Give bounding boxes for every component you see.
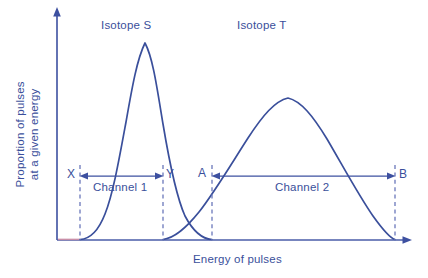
curves-group: [80, 43, 395, 240]
y-axis-arrow-icon: [53, 7, 61, 17]
channel-1-right-arrowhead-icon: [155, 173, 164, 180]
y-axis-title-line-1: Proportion of pulses: [13, 69, 27, 199]
y-axis-title-line-2: at a given energy: [27, 69, 41, 199]
pulse-energy-distribution-figure: Isotope S Isotope T X Y A B Channel 1 Ch…: [0, 0, 428, 278]
isotope-s-label: Isotope S: [101, 18, 151, 32]
threshold-label-y: Y: [166, 167, 174, 182]
y-axis-title: Proportion of pulses at a given energy: [13, 69, 42, 199]
channel-1-left-arrowhead-icon: [80, 173, 89, 180]
channel-2-arrow-group: [212, 173, 396, 180]
isotope-s-curve: [80, 43, 212, 240]
channel-1-label: Channel 1: [93, 180, 147, 194]
figure-canvas: [0, 0, 428, 278]
x-axis-arrow-icon: [403, 236, 413, 244]
isotope-t-label: Isotope T: [237, 18, 287, 32]
channel-1-arrow-group: [80, 173, 164, 180]
x-axis-title: Energy of pulses: [193, 252, 282, 266]
channel-2-right-arrowhead-icon: [387, 173, 396, 180]
channel-2-left-arrowhead-icon: [212, 173, 221, 180]
threshold-label-a: A: [198, 166, 206, 181]
threshold-label-x: X: [67, 167, 75, 182]
channel-2-label: Channel 2: [275, 180, 329, 194]
threshold-label-b: B: [399, 167, 407, 182]
